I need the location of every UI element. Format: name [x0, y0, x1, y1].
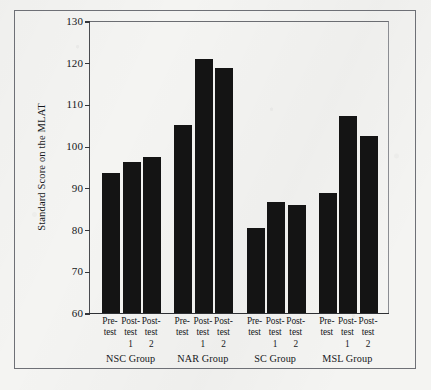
bar: [143, 157, 161, 313]
y-tick-label: 120: [66, 56, 83, 71]
y-tick-mark: [85, 188, 90, 189]
y-axis-title: Standard Score on the MLAT: [33, 21, 49, 313]
bar-tick-label-line: Post-: [281, 316, 311, 327]
bar-tick-label-line: 2: [281, 339, 311, 350]
bar: [319, 193, 337, 313]
bar-tick-label-line: test: [208, 327, 238, 338]
y-tick-mark: [85, 63, 90, 64]
y-tick-label: 110: [67, 97, 83, 112]
bar-tick-label-line: Post-: [353, 316, 383, 327]
y-tick-label: 60: [72, 306, 83, 321]
bar-tick-label-line: 2: [208, 339, 238, 350]
bar-tick-label-line: 2: [136, 339, 166, 350]
bar-tick-label-line: test: [281, 327, 311, 338]
bar: [123, 162, 141, 313]
x-axis-baseline: [89, 313, 389, 314]
bar: [360, 136, 378, 313]
bar-tick-label-line: test: [353, 327, 383, 338]
bar-chart-figure: Standard Score on the MLAT 6070809010011…: [0, 0, 431, 390]
bar-tick-label-line: 2: [353, 339, 383, 350]
bar-tick-label: Post-test2: [208, 316, 238, 350]
bar: [102, 173, 120, 313]
bar: [215, 68, 233, 313]
y-tick-label: 130: [66, 14, 83, 29]
bar-tick-label: Post-test2: [353, 316, 383, 350]
x-axis-group-labels: NSC GroupNAR GroupSC GroupMSL Group: [89, 352, 389, 368]
bar-tick-label-line: Post-: [208, 316, 238, 327]
bar: [247, 228, 265, 314]
group-label: MSL Group: [304, 352, 391, 365]
y-tick-label: 90: [72, 181, 83, 196]
bar-tick-label-line: Post-: [136, 316, 166, 327]
y-tick-label: 80: [72, 223, 83, 238]
y-tick-label: 100: [66, 139, 83, 154]
bar: [339, 116, 357, 313]
y-tick-mark: [85, 21, 90, 22]
y-tick-mark: [85, 272, 90, 273]
bar-tick-label: Post-test2: [281, 316, 311, 350]
y-tick-mark: [85, 230, 90, 231]
y-tick-mark: [85, 147, 90, 148]
bar-tick-label-line: test: [136, 327, 166, 338]
y-tick-mark: [85, 105, 90, 106]
bar: [174, 125, 192, 313]
y-tick-label: 70: [72, 264, 83, 279]
bar: [288, 205, 306, 313]
bar-tick-label: Post-test2: [136, 316, 166, 350]
bar: [267, 202, 285, 313]
bar: [195, 59, 213, 313]
plot-area: 60708090100110120130: [89, 21, 389, 313]
